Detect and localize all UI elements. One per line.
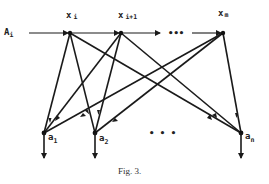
edge-xi-an — [70, 33, 241, 133]
edge-xi1-a2 — [95, 33, 121, 133]
node-x-m — [221, 31, 225, 35]
edge-xi1-an — [121, 33, 241, 133]
top-ellipsis: ••• — [168, 28, 184, 38]
edge-arrowheads — [49, 110, 239, 123]
node-label-a-2: a2 — [99, 133, 108, 146]
svg-text:xi+1: xi+1 — [118, 10, 137, 21]
svg-text:xi: xi — [66, 10, 77, 21]
node-label-a-n: an — [245, 131, 254, 144]
edge-xi1-a1 — [44, 33, 121, 133]
node-label-x-i+1: xi+1 — [118, 10, 137, 21]
svg-text:a1: a1 — [48, 132, 57, 145]
svg-text:xm: xm — [218, 8, 228, 19]
diagram-canvas: Ai xi xi+1 xm ••• — [0, 0, 269, 184]
node-x-i — [68, 31, 72, 35]
figure-caption: Fig. 3. — [118, 166, 141, 176]
edge-xm-a1 — [44, 33, 223, 133]
svg-text:an: an — [245, 131, 254, 144]
edge-xm-a2 — [95, 33, 223, 133]
input-label-A-i: Ai — [4, 27, 13, 39]
bottom-ellipsis: • • • — [149, 128, 176, 138]
node-label-x-m: xm — [218, 8, 228, 19]
node-label-a-1: a1 — [48, 132, 57, 145]
svg-text:Ai: Ai — [4, 27, 13, 39]
node-x-i+1 — [119, 31, 123, 35]
edge-xm-an — [223, 33, 241, 133]
node-label-x-i: xi — [66, 10, 77, 21]
svg-text:a2: a2 — [99, 133, 108, 146]
